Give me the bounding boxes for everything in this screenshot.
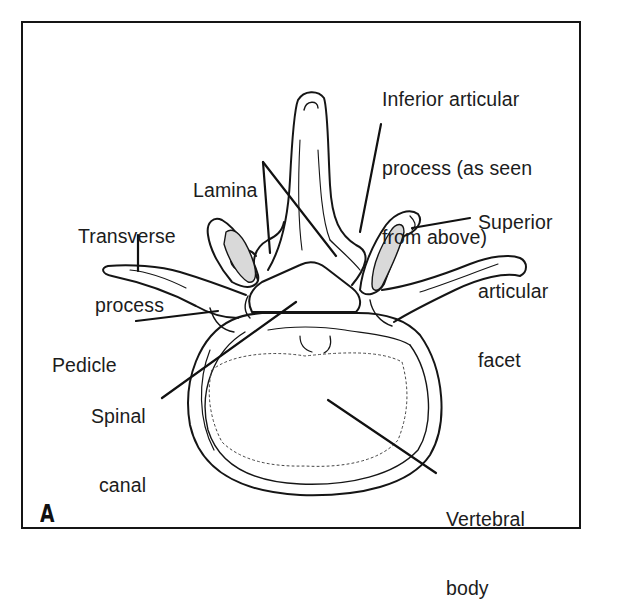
leader-lamina-right	[263, 162, 336, 256]
leader-inferior-articular	[360, 124, 381, 232]
leader-vertebral-body	[328, 400, 436, 473]
left-articular-facet	[224, 230, 255, 282]
label-line: body	[446, 577, 525, 600]
label-line: Superior	[478, 211, 553, 234]
leader-lamina-left	[263, 162, 270, 253]
label-line: Inferior articular	[382, 88, 532, 111]
label-line: facet	[478, 349, 553, 372]
cancellous-bone	[209, 353, 407, 466]
vertebral-body-outline	[188, 313, 441, 495]
label-line: articular	[478, 280, 553, 303]
label-spinal-canal: Spinal canal	[91, 359, 146, 520]
spinal-canal-outline	[249, 262, 360, 312]
label-superior-articular-facet: Superior articular facet	[478, 165, 553, 395]
label-line: canal	[91, 474, 146, 497]
label-line: Spinal	[91, 405, 146, 428]
label-line: Lamina	[193, 179, 258, 202]
label-line: Vertebral	[446, 508, 525, 531]
label-lamina: Lamina	[193, 133, 258, 225]
label-line: Transverse	[78, 225, 176, 248]
panel-letter: A	[40, 500, 54, 528]
label-vertebral-body: Vertebral body	[446, 462, 525, 603]
